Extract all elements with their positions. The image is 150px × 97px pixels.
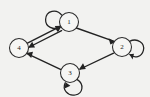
- graph-figure: 1 2 3 4: [0, 0, 150, 97]
- node-4[interactable]: 4: [10, 39, 29, 58]
- directed-graph-canvas: 1 2 3 4: [0, 0, 150, 97]
- node-2-circle[interactable]: [113, 38, 132, 57]
- edge-3-to-4: [26, 52, 61, 70]
- edge-2-to-3: [79, 53, 114, 69]
- node-1-circle[interactable]: [60, 13, 79, 32]
- node-2[interactable]: 2: [113, 38, 132, 57]
- node-1[interactable]: 1: [60, 13, 79, 32]
- node-4-circle[interactable]: [10, 39, 29, 58]
- edge-4-to-1: [27, 26, 61, 44]
- edge-1-to-4: [28, 31, 62, 48]
- node-3[interactable]: 3: [61, 64, 80, 83]
- edge-1-to-2: [76, 28, 115, 45]
- arrowhead-loop-3: [65, 82, 71, 88]
- node-3-circle[interactable]: [61, 64, 80, 83]
